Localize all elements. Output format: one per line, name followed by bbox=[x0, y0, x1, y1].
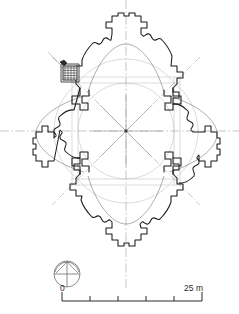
compass-rose bbox=[54, 261, 80, 287]
centre-point bbox=[125, 130, 128, 133]
scale-end-label: 25 m bbox=[184, 283, 203, 293]
scale-start-label: 0 bbox=[60, 283, 65, 293]
architectural-plan-figure: 0 25 m bbox=[0, 0, 239, 314]
plan-drawing: 0 25 m bbox=[0, 0, 239, 314]
